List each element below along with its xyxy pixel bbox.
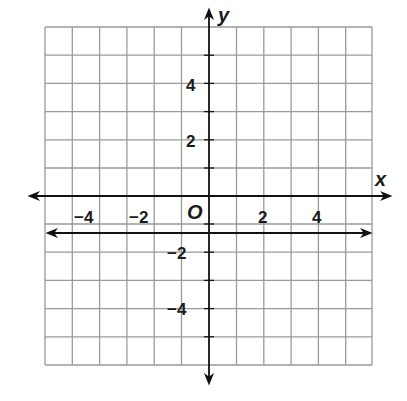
x-tick-label: −2 <box>129 208 148 227</box>
x-axis-label: x <box>374 168 387 190</box>
y-tick-label: −2 <box>167 244 186 263</box>
y-axis-label: y <box>217 4 230 26</box>
coordinate-plane: y x O −4 −2 2 4 4 2 −2 −4 <box>0 0 407 401</box>
y-tick-label: 4 <box>186 76 196 95</box>
y-tick-label: −4 <box>167 300 187 319</box>
x-tick-label: −4 <box>74 208 94 227</box>
origin-label: O <box>187 201 203 223</box>
x-tick-label: 4 <box>312 208 322 227</box>
y-tick-label: 2 <box>186 132 195 151</box>
x-tick-label: 2 <box>258 208 267 227</box>
